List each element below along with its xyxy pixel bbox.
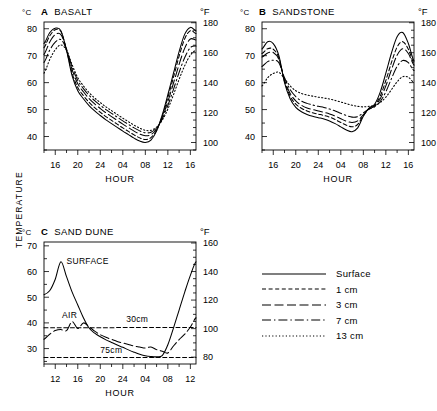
y-tick-label: 30 xyxy=(27,344,37,354)
x-tick-label: 20 xyxy=(291,160,301,170)
x-tick-label: 12 xyxy=(163,160,173,170)
legend-label: 7 cm xyxy=(336,315,358,326)
legend-item: 3 cm xyxy=(262,297,371,313)
panel-a-id: A xyxy=(35,6,51,17)
y2-tick-label: 120 xyxy=(203,108,218,118)
y2-tick-label: 140 xyxy=(203,78,218,88)
x-axis-label: HOUR xyxy=(323,174,353,184)
x-tick-label: 12 xyxy=(185,374,195,384)
x-tick-label: 16 xyxy=(50,160,60,170)
y-tick-label: 60 xyxy=(27,78,37,88)
panel-c-unit-fahrenheit: °F xyxy=(200,226,210,237)
x-tick-label: 08 xyxy=(140,160,150,170)
x-tick-label: 08 xyxy=(358,160,368,170)
legend-line-swatch xyxy=(262,300,326,310)
legend-line-swatch xyxy=(262,269,326,279)
panel-b-unit-fahrenheit: °F xyxy=(418,6,428,17)
x-tick-label: 20 xyxy=(73,160,83,170)
series-line xyxy=(262,60,414,117)
curve-annotation: AIR xyxy=(62,310,77,320)
y2-tick-label: 140 xyxy=(421,78,436,88)
x-tick-label: 04 xyxy=(140,374,150,384)
legend-label: 3 cm xyxy=(336,299,358,310)
y2-tick-label: 160 xyxy=(421,48,436,58)
y-tick-label: 40 xyxy=(245,132,255,142)
legend-label: 13 cm xyxy=(336,330,363,341)
panel-b-sandstone: °C B SANDSTONE °F 4050607080100120140160… xyxy=(232,0,437,200)
y-tick-label: 80 xyxy=(27,24,37,34)
panel-a-plot: 405060708010012014016018016202404081216H… xyxy=(0,0,220,200)
panel-c-plot: 30405060708010012014016012162024040812HO… xyxy=(0,220,220,411)
x-tick-label: 12 xyxy=(50,374,60,384)
series-line xyxy=(44,33,196,135)
legend-item: Surface xyxy=(262,266,371,282)
y2-tick-label: 160 xyxy=(203,238,218,248)
series-line xyxy=(44,45,196,131)
panel-c-sand-dune: °C C SAND DUNE °F 3040506070801001201401… xyxy=(0,220,220,411)
series-legend: Surface1 cm3 cm7 cm13 cm xyxy=(262,266,371,344)
y2-tick-label: 120 xyxy=(203,295,218,305)
legend-line-swatch xyxy=(262,284,326,294)
x-tick-label: 04 xyxy=(336,160,346,170)
y2-tick-label: 180 xyxy=(421,18,436,28)
x-tick-label: 04 xyxy=(118,160,128,170)
y2-tick-label: 180 xyxy=(203,18,218,28)
legend-label: Surface xyxy=(336,268,371,279)
x-tick-label: 12 xyxy=(381,160,391,170)
legend-item: 1 cm xyxy=(262,282,371,298)
curve-annotation: 75cm xyxy=(100,345,122,355)
y2-tick-label: 100 xyxy=(203,138,218,148)
x-tick-label: 16 xyxy=(185,160,195,170)
panel-a-title: °C A BASALT xyxy=(22,6,92,17)
y-tick-label: 40 xyxy=(27,132,37,142)
y-tick-label: 50 xyxy=(27,105,37,115)
x-tick-label: 16 xyxy=(403,160,413,170)
panel-c-id: C xyxy=(35,226,51,237)
curve-annotation: SURFACE xyxy=(67,256,109,266)
x-tick-label: 24 xyxy=(118,374,128,384)
panel-a-title-text: BASALT xyxy=(54,6,92,17)
temperature-profiles-figure: TEMPERATURE °C A BASALT °F 4050607080100… xyxy=(0,0,437,411)
x-tick-label: 16 xyxy=(268,160,278,170)
x-tick-label: 24 xyxy=(95,160,105,170)
x-tick-label: 24 xyxy=(313,160,323,170)
y2-tick-label: 80 xyxy=(203,352,213,362)
panel-b-plot: 405060708010012014016018016202404081216H… xyxy=(232,0,437,200)
x-axis-label: HOUR xyxy=(105,174,135,184)
y-tick-label: 70 xyxy=(27,51,37,61)
x-tick-label: 08 xyxy=(163,374,173,384)
y2-tick-label: 140 xyxy=(203,267,218,277)
legend-line-swatch xyxy=(262,315,326,325)
x-tick-label: 20 xyxy=(95,374,105,384)
y2-tick-label: 160 xyxy=(203,48,218,58)
y2-tick-label: 100 xyxy=(203,324,218,334)
y-tick-label: 60 xyxy=(245,78,255,88)
y-tick-label: 70 xyxy=(245,51,255,61)
panel-b-unit-celsius: °C xyxy=(240,8,250,17)
panel-c-unit-celsius: °C xyxy=(22,228,32,237)
y-tick-label: 60 xyxy=(27,267,37,277)
panel-a-unit-fahrenheit: °F xyxy=(200,6,210,17)
x-tick-label: 16 xyxy=(73,374,83,384)
y2-tick-label: 100 xyxy=(421,138,436,148)
panel-b-id: B xyxy=(253,6,269,17)
legend-label: 1 cm xyxy=(336,284,358,295)
legend-line-swatch xyxy=(262,331,326,341)
curve-annotation: 30cm xyxy=(126,314,148,324)
y-tick-label: 80 xyxy=(245,24,255,34)
panel-a-basalt: °C A BASALT °F 4050607080100120140160180… xyxy=(0,0,220,200)
panel-a-unit-celsius: °C xyxy=(22,8,32,17)
y-tick-label: 40 xyxy=(27,318,37,328)
y-tick-label: 50 xyxy=(27,293,37,303)
x-axis-label: HOUR xyxy=(105,388,135,398)
panel-b-title: °C B SANDSTONE xyxy=(240,6,335,17)
legend-item: 13 cm xyxy=(262,328,371,344)
panel-b-title-text: SANDSTONE xyxy=(272,6,335,17)
y2-tick-label: 120 xyxy=(421,108,436,118)
panel-c-title-text: SAND DUNE xyxy=(54,226,114,237)
y-tick-label: 50 xyxy=(245,105,255,115)
legend-item: 7 cm xyxy=(262,313,371,329)
panel-c-title: °C C SAND DUNE xyxy=(22,226,114,237)
y-tick-label: 70 xyxy=(27,241,37,251)
